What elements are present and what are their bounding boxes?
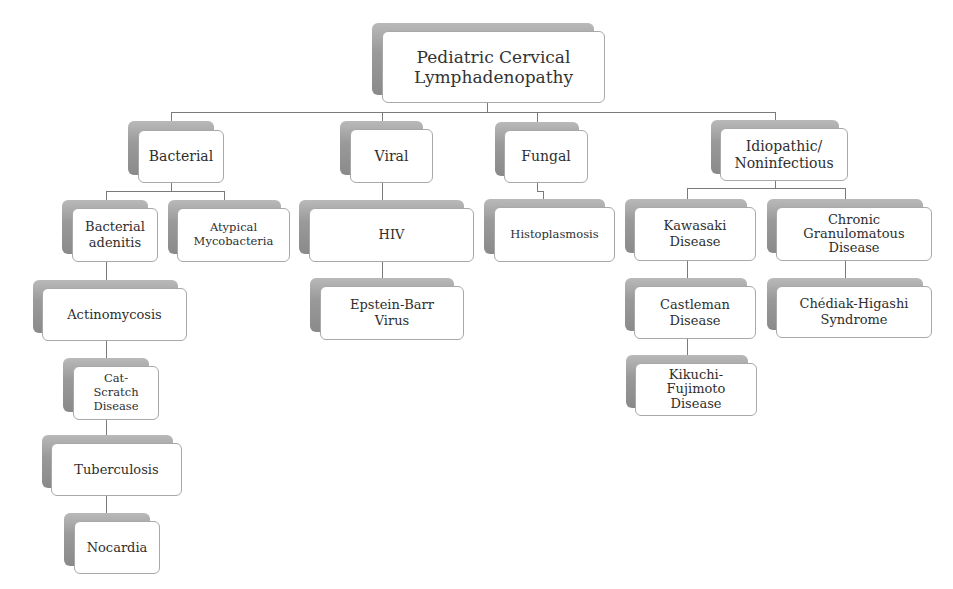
connector xyxy=(687,188,845,189)
connector xyxy=(537,183,538,191)
root-label: Pediatric Cervical Lymphadenopathy xyxy=(382,31,605,103)
connector xyxy=(106,191,224,192)
connector xyxy=(487,103,488,112)
connector xyxy=(171,183,172,191)
connector xyxy=(171,112,776,113)
connector xyxy=(775,181,776,188)
